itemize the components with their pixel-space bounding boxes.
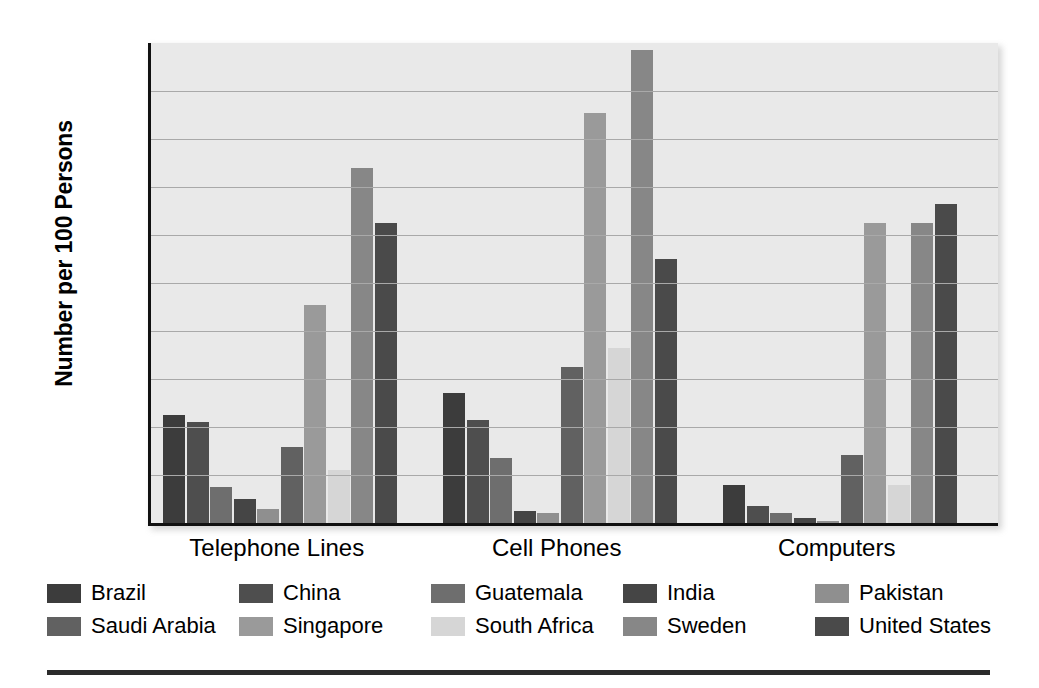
legend-item[interactable]: Singapore <box>239 613 431 639</box>
gridline <box>151 187 998 188</box>
gridline <box>151 475 998 476</box>
gridline <box>151 235 998 236</box>
bar <box>723 485 745 523</box>
legend-item[interactable]: United States <box>815 613 1007 639</box>
bar <box>537 513 559 523</box>
chart-legend: BrazilChinaGuatemalaIndiaPakistanSaudi A… <box>47 578 1007 644</box>
legend-swatch <box>815 617 849 636</box>
bar <box>584 113 606 523</box>
legend-item[interactable]: Pakistan <box>815 580 1007 606</box>
legend-row: Saudi ArabiaSingaporeSouth AfricaSwedenU… <box>47 611 1007 641</box>
legend-swatch <box>47 617 81 636</box>
legend-swatch <box>47 584 81 603</box>
gridline <box>151 379 998 380</box>
legend-label: Guatemala <box>475 580 583 606</box>
legend-label: China <box>283 580 340 606</box>
bar <box>864 223 886 523</box>
bar <box>234 499 256 523</box>
chart-figure: Number per 100 Persons 10090807060504030… <box>0 0 1039 688</box>
bar <box>163 415 185 523</box>
x-category-label: Telephone Lines <box>127 534 427 562</box>
legend-label: United States <box>859 613 991 639</box>
bar <box>281 447 303 523</box>
legend-item[interactable]: Sweden <box>623 613 815 639</box>
legend-label: South Africa <box>475 613 594 639</box>
gridline <box>151 139 998 140</box>
bar <box>841 455 863 523</box>
bar <box>747 506 769 523</box>
gridline <box>151 427 998 428</box>
bar <box>443 393 465 523</box>
bar <box>514 511 536 523</box>
legend-label: Pakistan <box>859 580 943 606</box>
bar <box>631 50 653 523</box>
bar <box>911 223 933 523</box>
legend-swatch <box>239 617 273 636</box>
bottom-rule <box>47 670 990 675</box>
legend-label: Brazil <box>91 580 146 606</box>
bar <box>257 509 279 523</box>
bar <box>351 168 373 523</box>
bar <box>888 485 910 523</box>
legend-swatch <box>431 584 465 603</box>
legend-swatch <box>431 617 465 636</box>
legend-item[interactable]: Saudi Arabia <box>47 613 239 639</box>
plot-area <box>148 43 998 526</box>
bar <box>304 305 326 523</box>
x-category-label: Cell Phones <box>407 534 707 562</box>
bar <box>770 513 792 523</box>
legend-item[interactable]: Brazil <box>47 580 239 606</box>
legend-item[interactable]: China <box>239 580 431 606</box>
bar <box>328 470 350 523</box>
legend-item[interactable]: South Africa <box>431 613 623 639</box>
legend-swatch <box>815 584 849 603</box>
bar <box>467 420 489 523</box>
legend-label: Sweden <box>667 613 747 639</box>
legend-label: Singapore <box>283 613 383 639</box>
gridline <box>151 91 998 92</box>
gridline <box>151 283 998 284</box>
legend-label: India <box>667 580 715 606</box>
legend-swatch <box>623 617 657 636</box>
bar <box>794 518 816 523</box>
legend-item[interactable]: India <box>623 580 815 606</box>
legend-label: Saudi Arabia <box>91 613 216 639</box>
bar <box>375 223 397 523</box>
gridline <box>151 331 998 332</box>
legend-swatch <box>239 584 273 603</box>
bar <box>817 521 839 523</box>
bar <box>608 348 630 523</box>
bar <box>490 458 512 523</box>
legend-swatch <box>623 584 657 603</box>
legend-item[interactable]: Guatemala <box>431 580 623 606</box>
bar <box>561 367 583 523</box>
x-category-label: Computers <box>687 534 987 562</box>
bar <box>210 487 232 523</box>
bar <box>655 259 677 523</box>
bar <box>187 422 209 523</box>
legend-row: BrazilChinaGuatemalaIndiaPakistan <box>47 578 1007 608</box>
